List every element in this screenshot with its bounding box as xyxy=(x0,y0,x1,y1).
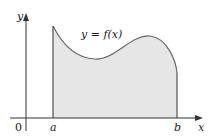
y-axis-arrow-icon xyxy=(23,13,29,21)
diagram-canvas xyxy=(0,0,216,137)
x-axis-label: x xyxy=(198,122,204,133)
origin-label: 0 xyxy=(15,122,22,133)
curve-label: y = f(x) xyxy=(81,29,122,40)
a-label: a xyxy=(50,122,57,133)
y-axis-label: y xyxy=(17,11,23,22)
b-label: b xyxy=(174,122,181,133)
area-under-curve-diagram: y y = f(x) 0 a b x xyxy=(0,0,216,137)
